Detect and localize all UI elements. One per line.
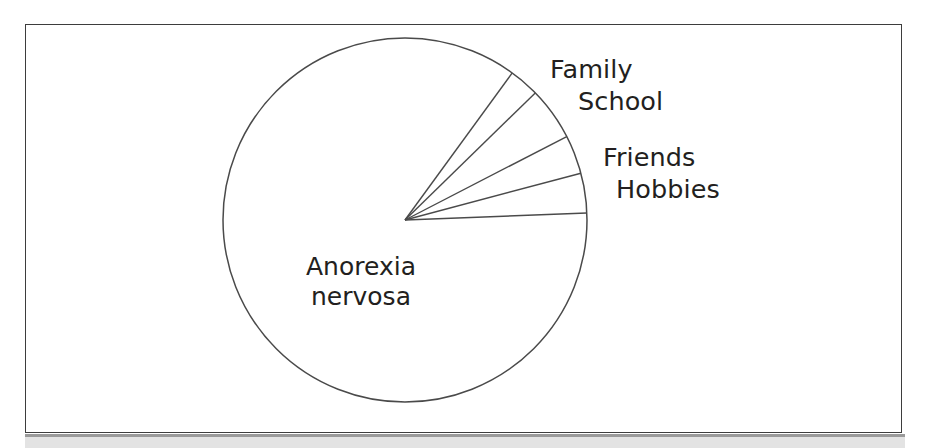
figure-canvas: Family School Friends Hobbies Anorexia n…	[0, 0, 925, 448]
pie-slice-label-anorexia-nervosa: Anorexia nervosa	[306, 252, 416, 312]
pie-slice-label-anorexia-line2: nervosa	[306, 282, 416, 312]
page-bottom-band	[25, 437, 905, 448]
pie-slice-label-family: Family	[550, 54, 633, 85]
pie-slice-label-friends: Friends	[603, 142, 695, 173]
pie-slice-label-anorexia-line1: Anorexia	[306, 252, 416, 282]
pie-chart-graphic	[0, 0, 925, 448]
pie-slice-label-hobbies: Hobbies	[616, 174, 720, 205]
pie-slice-label-school: School	[578, 86, 663, 117]
